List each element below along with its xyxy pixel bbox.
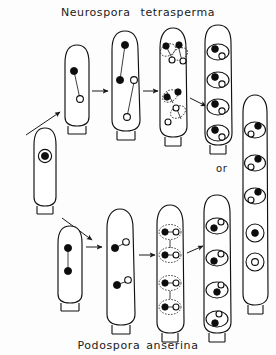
neurospora-stage-3-ascus [158,28,189,146]
nucleus-light [173,252,179,258]
or-label: or [216,163,227,174]
nucleus-light [124,114,131,121]
nucleus-dark [121,41,128,48]
zygote-cell [34,128,56,214]
arrow-bottom-3-4 [187,246,203,253]
nucleus-dark [162,229,168,235]
neurospora-stage-2-ascus [112,31,140,140]
nucleus-light [173,280,179,286]
nucleus-light [125,277,132,284]
nucleus-dark [70,67,77,74]
nucleus-light [165,119,171,125]
nucleus-dark [64,267,71,274]
nucleus-light [131,77,138,84]
zygote-nucleus [38,149,51,162]
nucleus-dark [164,94,170,100]
nucleus-light [173,304,179,310]
nucleus-dark [176,42,182,48]
nucleus-dark [162,252,168,258]
nucleus-dark [162,304,168,310]
nucleus-dark [111,244,118,251]
neurospora-stage-4-ascus [205,25,232,154]
nucleus-light [169,57,175,63]
nucleus-light [180,58,186,64]
nucleus-dark [113,281,120,288]
neurospora-alternative-ascus [243,95,268,314]
nucleus-dark [116,76,123,83]
podospora-stage-1-ascus [58,226,82,311]
nucleus-dark [162,280,168,286]
nucleus-dark [175,89,181,95]
podospora-stage-3-ascus [157,205,184,342]
figure-title-bottom: Podosporaanserina [0,339,276,352]
neurospora-stage-1-ascus [65,45,89,134]
nucleus-dark [64,244,71,251]
title-top-genus: Neurospora [61,6,131,19]
nucleus-light [173,229,179,235]
diagram-canvas [0,0,276,355]
nucleus-light [77,96,84,103]
arrow-top-3-4 [190,98,206,106]
podospora-stage-2-ascus [107,209,135,334]
title-top-species: tetrasperma [141,6,216,19]
ascus-development-figure: Neurosporatetrasperma or Podosporaanseri… [0,0,276,355]
nucleus-light [173,105,179,111]
podospora-stage-4-ascus [204,195,231,342]
title-bottom-species: anserina [146,339,198,352]
nucleus-light [123,239,130,246]
figure-title-top: Neurosporatetrasperma [0,6,276,19]
title-bottom-genus: Podospora [77,339,140,352]
nucleus-dark [163,43,169,49]
